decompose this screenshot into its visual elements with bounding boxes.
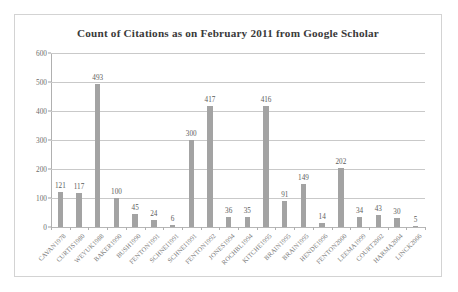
x-axis-tick-mark <box>257 227 258 230</box>
y-axis-tick-mark <box>48 198 51 199</box>
x-axis-tick-mark <box>406 227 407 230</box>
bar[interactable] <box>189 140 194 227</box>
bar-value-label: 30 <box>393 208 400 216</box>
bar-value-label: 117 <box>74 183 85 191</box>
y-axis-tick-mark <box>48 140 51 141</box>
bar[interactable] <box>170 225 175 227</box>
bar-value-label: 6 <box>171 215 175 223</box>
bar[interactable] <box>151 220 156 227</box>
bar[interactable] <box>114 198 119 227</box>
bar[interactable] <box>282 201 287 227</box>
x-axis-tick-mark <box>88 227 89 230</box>
y-axis-tick-mark <box>48 111 51 112</box>
gridline <box>51 82 425 83</box>
gridline <box>51 140 425 141</box>
gridline <box>51 53 425 54</box>
bar-value-label: 14 <box>319 213 326 221</box>
x-axis-tick-mark <box>294 227 295 230</box>
y-axis-tick-mark <box>48 82 51 83</box>
bar-value-label: 34 <box>356 207 363 215</box>
y-axis-tick-label: 600 <box>36 49 47 58</box>
bar-value-label: 36 <box>225 207 232 215</box>
bar-value-label: 43 <box>375 205 382 213</box>
chart-container: Count of Citations as on February 2011 f… <box>14 14 442 277</box>
y-axis-tick-mark <box>48 53 51 54</box>
y-axis-tick-label: 200 <box>36 165 47 174</box>
bar[interactable] <box>357 217 362 227</box>
bar-value-label: 45 <box>132 204 139 212</box>
bar-value-label: 417 <box>205 96 216 104</box>
y-axis-tick-label: 0 <box>43 223 47 232</box>
x-axis-tick-mark <box>201 227 202 230</box>
bar[interactable] <box>207 106 212 227</box>
gridline <box>51 169 425 170</box>
x-axis-tick-mark <box>313 227 314 230</box>
plot-wrapper: 0100200300400500600121CAVAN1978117CURTIS… <box>15 15 441 276</box>
bar[interactable] <box>301 184 306 227</box>
bar[interactable] <box>376 215 381 227</box>
bar-value-label: 416 <box>261 96 272 104</box>
bar-value-label: 121 <box>55 182 66 190</box>
bar[interactable] <box>226 217 231 227</box>
y-axis-tick-label: 500 <box>36 78 47 87</box>
bar-value-label: 300 <box>186 130 197 138</box>
x-axis-tick-mark <box>388 227 389 230</box>
x-axis-tick-mark <box>219 227 220 230</box>
bar[interactable] <box>319 223 324 227</box>
bar-value-label: 35 <box>244 207 251 215</box>
x-axis-tick-mark <box>238 227 239 230</box>
gridline <box>51 111 425 112</box>
y-axis-tick-label: 100 <box>36 194 47 203</box>
bar-value-label: 493 <box>92 74 103 82</box>
bar[interactable] <box>394 218 399 227</box>
bar[interactable] <box>95 84 100 227</box>
bar[interactable] <box>245 217 250 227</box>
bar-value-label: 100 <box>111 188 122 196</box>
bar[interactable] <box>58 192 63 227</box>
x-axis-tick-mark <box>332 227 333 230</box>
x-axis-tick-mark <box>70 227 71 230</box>
x-axis-tick-mark <box>425 227 426 230</box>
bar-value-label: 24 <box>150 210 157 218</box>
bar[interactable] <box>413 226 418 227</box>
y-axis-tick-label: 300 <box>36 136 47 145</box>
bar[interactable] <box>338 168 343 227</box>
x-axis-tick-mark <box>126 227 127 230</box>
bar-value-label: 149 <box>298 174 309 182</box>
plot-area: 0100200300400500600121CAVAN1978117CURTIS… <box>51 53 425 227</box>
x-axis-tick-mark <box>369 227 370 230</box>
y-axis-tick-label: 400 <box>36 107 47 116</box>
x-axis-tick-mark <box>275 227 276 230</box>
bar[interactable] <box>263 106 268 227</box>
x-axis-tick-mark <box>51 227 52 230</box>
x-axis-tick-mark <box>182 227 183 230</box>
bar[interactable] <box>132 214 137 227</box>
bar-value-label: 5 <box>414 216 418 224</box>
gridline <box>51 198 425 199</box>
x-axis-tick-mark <box>107 227 108 230</box>
bar[interactable] <box>76 193 81 227</box>
bar-value-label: 202 <box>335 158 346 166</box>
bar-value-label: 91 <box>281 191 288 199</box>
x-axis-tick-mark <box>145 227 146 230</box>
x-axis-tick-mark <box>163 227 164 230</box>
x-axis-tick-mark <box>350 227 351 230</box>
y-axis-tick-mark <box>48 169 51 170</box>
